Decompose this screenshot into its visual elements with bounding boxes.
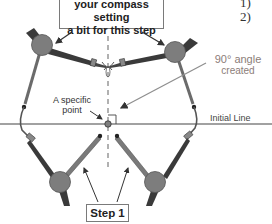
bottom-left-compass xyxy=(20,107,102,206)
step-arrow-right xyxy=(117,168,128,202)
step-arrow-left xyxy=(84,168,98,202)
initial-line-label: Initial Line xyxy=(210,113,251,123)
specific-point-label-line-1: A specific xyxy=(46,95,98,105)
compass-setting-callout: your compass setting a bit for this step xyxy=(59,0,164,29)
specific-point-label: A specific point xyxy=(46,95,98,115)
list-marker-2: 2) xyxy=(240,12,251,22)
step-1-label: Step 1 xyxy=(86,204,129,222)
list-marker-1: 1) xyxy=(240,0,251,8)
callout-line-1: your compass setting xyxy=(60,0,163,24)
bottom-right-hinge xyxy=(145,172,166,193)
angle-label-line-1: 90° angle xyxy=(208,54,268,65)
angle-label: 90° angle created xyxy=(208,54,268,76)
specific-point-label-line-2: point xyxy=(46,105,98,115)
angle-label-line-2: created xyxy=(208,65,268,76)
bottom-right-compass xyxy=(115,107,197,206)
bottom-left-hinge xyxy=(50,172,71,193)
callout-line-2: a bit for this step xyxy=(60,24,163,37)
top-left-hinge xyxy=(32,35,53,56)
top-right-hinge xyxy=(165,42,186,63)
specific-point xyxy=(105,121,111,127)
